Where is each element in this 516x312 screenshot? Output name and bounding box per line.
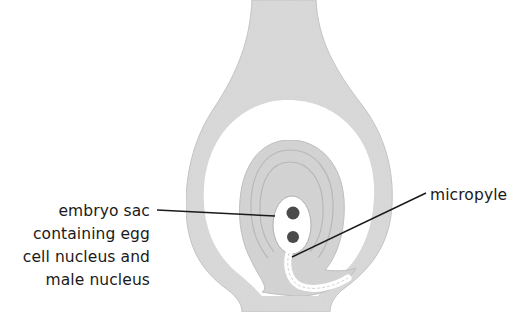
embryo-sac-label-line-4: male nucleus bbox=[23, 269, 150, 292]
embryo-sac-label-line-2: containing egg bbox=[23, 223, 150, 246]
micropyle-label: micropyle bbox=[430, 184, 507, 207]
embryo-sac-label-line-1: embryo sac bbox=[23, 200, 150, 223]
male-nucleus bbox=[287, 231, 299, 243]
embryo-sac-label: embryo sac containing egg cell nucleus a… bbox=[23, 200, 150, 292]
embryo-sac bbox=[273, 196, 311, 254]
micropyle-label-text: micropyle bbox=[430, 184, 507, 207]
embryo-sac-label-line-3: cell nucleus and bbox=[23, 246, 150, 269]
egg-cell-nucleus bbox=[287, 207, 300, 220]
